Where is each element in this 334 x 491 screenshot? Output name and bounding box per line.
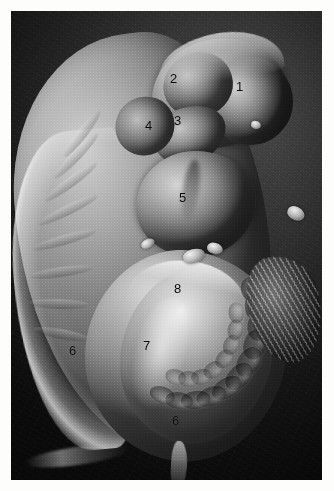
sem-figure: 123456786 bbox=[0, 0, 334, 491]
label-5-heart-bulge: 5 bbox=[179, 191, 186, 204]
micrograph-plate: 123456786 bbox=[11, 11, 322, 480]
label-4-branchial-arch: 4 bbox=[145, 119, 152, 132]
label-2-midbrain: 2 bbox=[170, 72, 177, 85]
label-3-branchial-arch: 3 bbox=[174, 114, 181, 127]
label-1-forebrain: 1 bbox=[236, 80, 243, 93]
label-8-dorsal: 8 bbox=[174, 282, 181, 295]
label-6-bottom: 6 bbox=[172, 414, 179, 427]
label-7-limb-bud: 7 bbox=[143, 339, 150, 352]
film-grain bbox=[11, 11, 322, 480]
label-6-left: 6 bbox=[69, 344, 76, 357]
